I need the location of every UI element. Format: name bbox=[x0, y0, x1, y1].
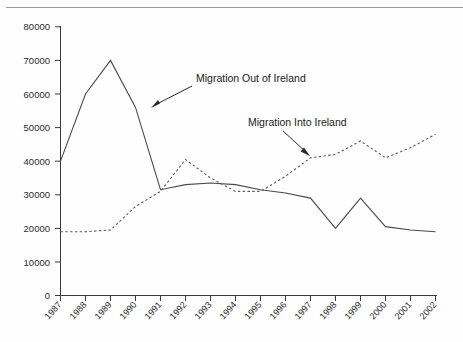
annotation-migration-out: Migration Out of Ireland bbox=[151, 72, 306, 108]
x-tick-label: 1989 bbox=[93, 300, 114, 322]
y-tick-label: 50000 bbox=[24, 122, 50, 133]
x-tick-label: 1999 bbox=[343, 300, 364, 322]
y-tick-label: 30000 bbox=[24, 189, 50, 200]
x-tick-label: 2001 bbox=[393, 300, 414, 322]
x-tick-label: 1991 bbox=[143, 300, 164, 322]
y-tick-label: 0 bbox=[45, 290, 50, 301]
x-tick-label: 1992 bbox=[168, 300, 189, 322]
y-tick-label: 70000 bbox=[24, 55, 50, 66]
annotation-label-migration-out: Migration Out of Ireland bbox=[196, 72, 306, 84]
chart-page: 0 10000 20000 30000 40000 50000 60000 70… bbox=[0, 0, 463, 342]
annotation-arrowhead-migration-out bbox=[151, 100, 160, 108]
series-line-migration-into bbox=[61, 134, 436, 231]
x-tick-label: 1987 bbox=[43, 300, 64, 322]
x-tick-label: 1993 bbox=[193, 300, 214, 322]
y-tick-label: 80000 bbox=[24, 21, 50, 32]
x-tick-label: 1998 bbox=[318, 300, 339, 322]
series-line-migration-out bbox=[61, 60, 436, 231]
x-tick-label: 1997 bbox=[293, 300, 314, 322]
x-axis-labels: 1987 1988 1989 1990 1991 1992 1993 1994 … bbox=[43, 300, 439, 322]
x-tick-label: 1988 bbox=[68, 300, 89, 322]
y-axis-labels: 0 10000 20000 30000 40000 50000 60000 70… bbox=[24, 21, 50, 301]
y-tick-label: 20000 bbox=[24, 223, 50, 234]
x-tick-label: 2002 bbox=[418, 300, 439, 322]
x-tick-label: 1994 bbox=[218, 300, 239, 322]
x-axis-ticks bbox=[61, 296, 436, 302]
x-tick-label: 1996 bbox=[268, 300, 289, 322]
x-tick-label: 1990 bbox=[118, 300, 139, 322]
y-tick-label: 60000 bbox=[24, 89, 50, 100]
x-tick-label: 1995 bbox=[243, 300, 264, 322]
annotation-label-migration-into: Migration Into Ireland bbox=[248, 116, 347, 128]
y-tick-label: 10000 bbox=[24, 257, 50, 268]
y-tick-label: 40000 bbox=[24, 156, 50, 167]
y-axis-ticks bbox=[55, 27, 61, 296]
x-tick-label: 2000 bbox=[368, 300, 389, 322]
migration-line-chart: 0 10000 20000 30000 40000 50000 60000 70… bbox=[0, 0, 463, 342]
annotation-migration-into: Migration Into Ireland bbox=[248, 116, 347, 156]
